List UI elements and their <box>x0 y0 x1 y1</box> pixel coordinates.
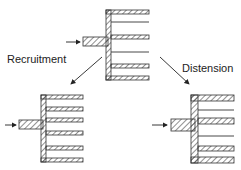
distension-structure <box>152 95 234 163</box>
microvascular-diagram <box>0 0 241 170</box>
recruitment-structure <box>5 95 83 162</box>
distension-label: Distension <box>182 63 233 74</box>
baseline-structure <box>66 10 149 80</box>
recruitment-arrow-icon <box>71 57 102 84</box>
recruitment-label: Recruitment <box>7 54 66 65</box>
